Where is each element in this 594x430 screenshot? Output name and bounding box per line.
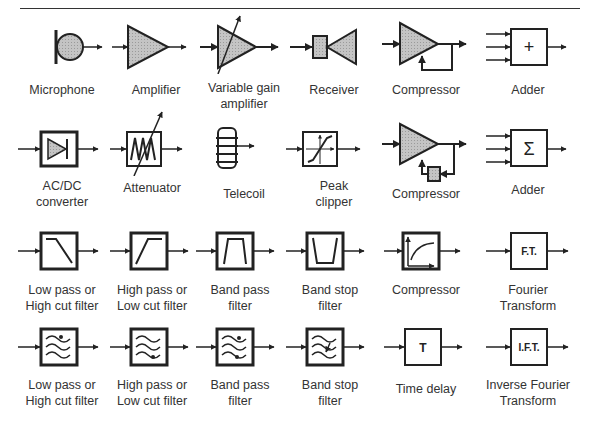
symbol-label: Adder bbox=[480, 182, 576, 198]
symbol-low-pass-filter-digital: Low pass or High cut filter bbox=[14, 325, 110, 409]
peak-clipper-icon bbox=[286, 122, 382, 176]
compressor-attenuator-feedback-icon bbox=[378, 122, 474, 182]
svg-text:F.T.: F.T. bbox=[521, 246, 537, 257]
symbol-peak-clipper: Peak clipper bbox=[286, 122, 382, 210]
svg-text:I.F.T.: I.F.T. bbox=[518, 342, 539, 353]
symbol-ac-dc-converter: AC/DC converter bbox=[14, 122, 110, 210]
symbol-label: Peak clipper bbox=[286, 178, 382, 210]
band-stop-filter-icon bbox=[282, 228, 378, 274]
microphone-icon bbox=[14, 18, 110, 74]
compressor-feedback-icon bbox=[378, 18, 474, 74]
symbol-label: Inverse Fourier Transform bbox=[480, 377, 576, 409]
svg-text:T: T bbox=[419, 341, 427, 355]
symbol-label: Telecoil bbox=[196, 186, 292, 202]
symbol-label: High pass or Low cut filter bbox=[104, 377, 200, 409]
symbol-band-stop-filter: Band stop filter bbox=[282, 228, 378, 314]
low-pass-filter-digital-icon bbox=[14, 325, 110, 371]
symbol-label: Compressor bbox=[378, 82, 474, 98]
symbol-time-delay: T Time delay bbox=[378, 325, 474, 397]
adder-sigma-icon: Σ bbox=[480, 122, 576, 176]
symbol-label: Variable gain amplifier bbox=[196, 80, 292, 112]
symbol-label: Low pass or High cut filter bbox=[14, 282, 110, 314]
symbol-band-stop-filter-digital: Band stop filter bbox=[282, 325, 378, 409]
symbol-compressor-2: Compressor bbox=[378, 122, 474, 202]
ac-dc-converter-icon bbox=[14, 122, 110, 176]
symbol-band-pass-filter: Band pass filter bbox=[192, 228, 288, 314]
compressor-io-curve-icon bbox=[378, 228, 474, 274]
symbol-adder-sigma: Σ Adder bbox=[480, 122, 576, 198]
variable-gain-amplifier-icon bbox=[196, 12, 292, 74]
svg-text:+: + bbox=[524, 37, 535, 57]
low-pass-filter-icon bbox=[14, 228, 110, 274]
receiver-icon bbox=[286, 18, 382, 74]
band-stop-filter-digital-icon bbox=[282, 325, 378, 371]
symbol-label: Compressor bbox=[378, 186, 474, 202]
symbol-label: Amplifier bbox=[108, 82, 204, 98]
symbol-label: Time delay bbox=[378, 381, 474, 397]
symbol-label: Band pass filter bbox=[192, 282, 288, 314]
symbol-label: Compressor bbox=[378, 282, 474, 298]
time-delay-icon: T bbox=[378, 325, 474, 371]
band-pass-filter-digital-icon bbox=[192, 325, 288, 371]
symbol-label: Adder bbox=[480, 82, 576, 98]
symbol-high-pass-filter: High pass or Low cut filter bbox=[104, 228, 200, 314]
symbol-adder-plus: + Adder bbox=[480, 18, 576, 98]
symbol-label: High pass or Low cut filter bbox=[104, 282, 200, 314]
symbol-label: Microphone bbox=[14, 82, 110, 98]
symbol-fourier-transform: F.T. Fourier Transform bbox=[480, 228, 576, 314]
amplifier-icon bbox=[108, 18, 204, 74]
adder-plus-icon: + bbox=[480, 18, 576, 74]
symbol-compressor-1: Compressor bbox=[378, 18, 474, 98]
fourier-transform-icon: F.T. bbox=[480, 228, 576, 274]
symbol-label: Band pass filter bbox=[192, 377, 288, 409]
inverse-fourier-transform-icon: I.F.T. bbox=[480, 325, 576, 371]
symbol-label: AC/DC converter bbox=[14, 178, 110, 210]
symbol-amplifier: Amplifier bbox=[108, 18, 204, 98]
symbol-receiver: Receiver bbox=[286, 18, 382, 98]
symbol-inverse-fourier-transform: I.F.T. Inverse Fourier Transform bbox=[480, 325, 576, 409]
svg-text:Σ: Σ bbox=[523, 139, 534, 159]
symbol-label: Low pass or High cut filter bbox=[14, 377, 110, 409]
symbol-band-pass-filter-digital: Band pass filter bbox=[192, 325, 288, 409]
attenuator-icon bbox=[104, 108, 200, 176]
symbol-compressor-3: Compressor bbox=[378, 228, 474, 298]
symbol-low-pass-filter: Low pass or High cut filter bbox=[14, 228, 110, 314]
symbol-label: Attenuator bbox=[104, 180, 200, 196]
high-pass-filter-digital-icon bbox=[104, 325, 200, 371]
symbol-telecoil: Telecoil bbox=[196, 122, 292, 202]
symbol-microphone: Microphone bbox=[14, 18, 110, 98]
symbol-attenuator: Attenuator bbox=[104, 108, 200, 196]
telecoil-icon bbox=[196, 122, 292, 176]
band-pass-filter-icon bbox=[192, 228, 288, 274]
top-rule bbox=[20, 8, 580, 9]
symbol-label: Receiver bbox=[286, 82, 382, 98]
symbol-high-pass-filter-digital: High pass or Low cut filter bbox=[104, 325, 200, 409]
symbol-label: Band stop filter bbox=[282, 282, 378, 314]
symbol-label: Band stop filter bbox=[282, 377, 378, 409]
symbol-label: Fourier Transform bbox=[480, 282, 576, 314]
high-pass-filter-icon bbox=[104, 228, 200, 274]
symbol-variable-gain-amplifier: Variable gain amplifier bbox=[196, 12, 292, 112]
